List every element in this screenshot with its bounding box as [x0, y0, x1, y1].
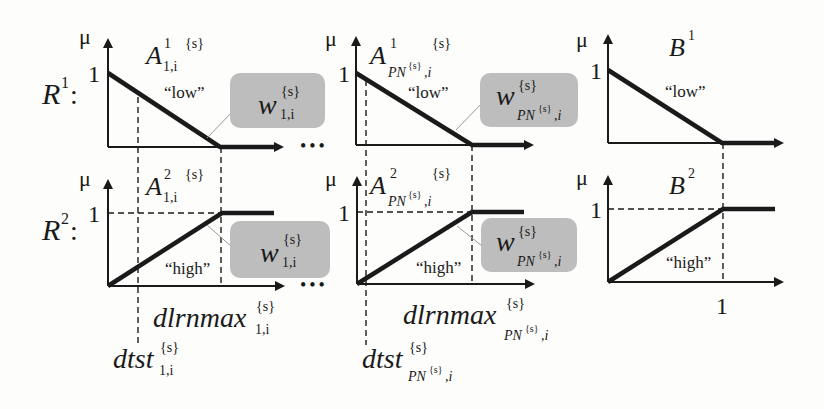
- svg-text:{s}: {s}: [432, 36, 451, 51]
- one-label: 1: [88, 201, 100, 227]
- set-label-b2: B 2: [669, 166, 695, 200]
- svg-text:{s}: {s}: [281, 84, 300, 99]
- membership-curve-low: [608, 70, 775, 143]
- one-label: 1: [590, 58, 602, 84]
- term-high: “high”: [666, 253, 711, 272]
- ellipsis-rule2: •••: [300, 275, 328, 295]
- term-low: “low”: [408, 83, 449, 102]
- svg-text:{s}: {s}: [538, 103, 552, 114]
- svg-text:A: A: [368, 41, 386, 70]
- svg-text:{s}: {s}: [256, 299, 275, 314]
- svg-text:{s}: {s}: [160, 340, 179, 355]
- svg-text:{s}: {s}: [283, 232, 302, 247]
- diagram-canvas: R 1 : R 2 : μ 1 A 1 1,i {s} “low” μ 1 A …: [0, 0, 824, 409]
- svg-text::: :: [70, 79, 78, 110]
- term-low: “low”: [164, 83, 205, 102]
- one-label: 1: [590, 197, 602, 223]
- svg-text:{s}: {s}: [525, 323, 539, 334]
- svg-text:1: 1: [61, 74, 69, 91]
- rule-label-r1: R 1 :: [41, 74, 78, 110]
- svg-text:PN: PN: [503, 328, 523, 343]
- weight-box-w1-rule1: w {s} 1,i: [207, 73, 325, 138]
- xlabel-dtst-1i: dtst {s} 1,i: [113, 340, 179, 378]
- set-label-apn1: A 1 PN {s} ,i {s}: [368, 36, 451, 80]
- svg-text:w: w: [258, 89, 277, 120]
- svg-text:R: R: [41, 213, 60, 246]
- svg-text:1: 1: [164, 36, 171, 51]
- svg-text:1,i: 1,i: [280, 107, 295, 122]
- svg-text:2: 2: [164, 167, 171, 182]
- svg-text:{s}: {s}: [409, 340, 428, 355]
- svg-text:PN: PN: [516, 108, 536, 123]
- term-low: “low”: [665, 82, 706, 101]
- mu-label: μ: [325, 26, 337, 51]
- chart-b1-low: μ 1 B 1 “low”: [576, 27, 782, 143]
- svg-text:w: w: [496, 80, 515, 111]
- svg-text:A: A: [368, 171, 386, 200]
- weight-box-wpn-rule1: w {s} PN {s} ,i: [456, 73, 578, 130]
- svg-text:{s}: {s}: [185, 36, 204, 51]
- svg-text:1,i: 1,i: [282, 255, 297, 270]
- mu-label: μ: [79, 24, 91, 49]
- weight-box-wpn-rule2: w {s} PN {s} ,i: [457, 218, 577, 272]
- one-label: 1: [88, 61, 100, 87]
- svg-text:{s}: {s}: [429, 364, 443, 375]
- x-one-label: 1: [716, 293, 728, 319]
- svg-text:2: 2: [688, 166, 695, 181]
- svg-text:1,i: 1,i: [159, 363, 174, 378]
- svg-text:B: B: [669, 171, 685, 200]
- set-label-apn2: A 2 PN {s} ,i {s}: [368, 166, 451, 209]
- svg-text:,i: ,i: [554, 254, 562, 269]
- svg-text:1,i: 1,i: [163, 59, 178, 74]
- term-high: “high”: [416, 258, 461, 277]
- svg-text:{s}: {s}: [506, 296, 525, 311]
- svg-text:{s}: {s}: [185, 167, 204, 182]
- svg-text:PN: PN: [387, 65, 407, 80]
- svg-text::: :: [70, 215, 78, 246]
- svg-text:1,i: 1,i: [163, 190, 178, 205]
- svg-text:PN: PN: [407, 369, 427, 384]
- svg-text:dlrnmax: dlrnmax: [403, 299, 497, 330]
- term-high: “high”: [165, 259, 210, 278]
- fuzzy-rules-diagram: R 1 : R 2 : μ 1 A 1 1,i {s} “low” μ 1 A …: [0, 0, 824, 409]
- chart-b2-high: μ 1 B 2 “high” 1: [576, 165, 782, 319]
- svg-text:R: R: [41, 77, 60, 110]
- xlabel-dtst-pni: dtst {s} PN {s} ,i: [362, 340, 453, 384]
- weight-box-w1-rule2: w {s} 1,i: [207, 221, 330, 278]
- set-label-a1: A 1 1,i {s}: [144, 36, 204, 74]
- mu-label: μ: [576, 27, 588, 52]
- svg-text:dtst: dtst: [362, 343, 404, 374]
- svg-text:,i: ,i: [424, 65, 432, 80]
- xlabel-dlrnmax-1i: dlrnmax {s} 1,i: [153, 299, 275, 337]
- ellipsis-rule1: •••: [300, 136, 328, 156]
- svg-text:PN: PN: [516, 254, 536, 269]
- svg-text:{s}: {s}: [432, 166, 451, 181]
- svg-text:,i: ,i: [424, 194, 432, 209]
- svg-text:{s}: {s}: [408, 60, 422, 71]
- rule-label-r2: R 2 :: [41, 210, 78, 246]
- svg-text:A: A: [144, 172, 162, 201]
- mu-label: μ: [325, 166, 337, 191]
- svg-text:,i: ,i: [445, 369, 453, 384]
- svg-text:A: A: [144, 41, 162, 70]
- set-label-b1: B 1: [669, 28, 695, 62]
- svg-text:dtst: dtst: [113, 343, 155, 374]
- svg-text:{s}: {s}: [518, 224, 537, 239]
- set-label-a2: A 2 1,i {s}: [144, 167, 204, 205]
- svg-text:PN: PN: [387, 194, 407, 209]
- svg-text:{s}: {s}: [538, 249, 552, 260]
- svg-text:2: 2: [390, 166, 397, 181]
- one-label: 1: [338, 200, 350, 226]
- xlabel-dlrnmax-pni: dlrnmax {s} PN {s} ,i: [403, 296, 549, 343]
- svg-text:1: 1: [688, 28, 695, 43]
- svg-text:1,i: 1,i: [255, 322, 270, 337]
- svg-text:,i: ,i: [541, 328, 549, 343]
- svg-text:1: 1: [390, 36, 397, 51]
- svg-text:B: B: [669, 33, 685, 62]
- svg-text:{s}: {s}: [408, 189, 422, 200]
- svg-text:,i: ,i: [554, 108, 562, 123]
- svg-text:2: 2: [61, 210, 69, 227]
- svg-text:w: w: [496, 226, 515, 257]
- svg-text:w: w: [260, 237, 279, 268]
- mu-label: μ: [79, 166, 91, 191]
